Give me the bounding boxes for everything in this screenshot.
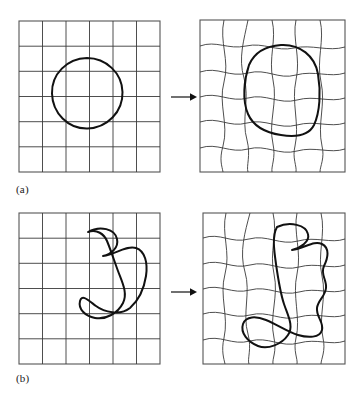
panel-b: (b) [0,196,359,401]
undeformed-grid-b [19,213,160,364]
panel-label-b: (b) [16,372,29,384]
transform-arrow-a [171,93,197,101]
undeformed-grid-a [19,21,160,172]
panel-a: (a) [0,0,359,205]
shape-scurve-deformed [242,224,327,347]
shape-circle-undeformed [52,58,123,129]
panel-a-graphic [0,0,359,205]
figure-root: (a) [0,0,359,401]
panel-label-a: (a) [16,183,29,195]
transform-arrow-b [171,288,197,296]
panel-b-graphic [0,196,359,401]
deformed-grid-a [200,20,345,172]
shape-circle-deformed [244,45,319,136]
